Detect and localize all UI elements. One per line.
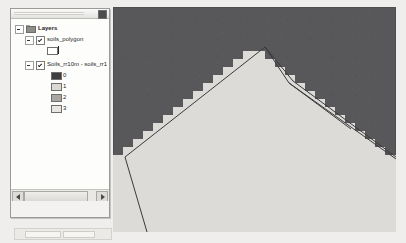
close-icon[interactable] [98, 10, 107, 19]
symbol-label-class-2: 2 [63, 92, 66, 103]
symbol-label-class-0: 0 [63, 70, 66, 81]
symbol-label-class-3: 3 [63, 103, 66, 114]
symbol-swatch-class-0[interactable] [51, 72, 62, 80]
folder-icon [26, 25, 34, 31]
layer-row-soils-rr10m[interactable]: Soils_rr10m - soils_rr1 [11, 59, 109, 70]
application-window: Layers soils_polygon Soils_rr10m - soils… [0, 0, 406, 243]
symbol-swatch-hollow[interactable] [47, 47, 58, 55]
layer-label-soils-rr10m: Soils_rr10m - soils_rr1 [47, 59, 107, 70]
table-of-contents-panel[interactable]: Layers soils_polygon Soils_rr10m - soils… [10, 8, 110, 218]
map-data-frame[interactable] [113, 7, 396, 232]
toc-body[interactable]: Layers soils_polygon Soils_rr10m - soils… [11, 19, 109, 201]
bottom-toolbar-strip[interactable] [14, 228, 112, 240]
symbol-row-soils-polygon-0[interactable] [11, 45, 109, 56]
symbol-swatch-class-1[interactable] [51, 83, 62, 91]
expander-icon-soils-rr10m[interactable] [25, 61, 34, 70]
layer-label-soils-polygon: soils_polygon [47, 34, 83, 45]
symbol-row-class-2[interactable]: 2 [11, 92, 109, 103]
scrollbar-thumb[interactable] [24, 191, 88, 201]
toolbar-segment-2[interactable] [63, 231, 95, 238]
map-graphics [113, 7, 396, 232]
layer-row-soils-polygon[interactable]: soils_polygon [11, 34, 109, 45]
visibility-checkbox-soils-rr10m[interactable] [36, 61, 45, 70]
visibility-checkbox-soils-polygon[interactable] [36, 36, 45, 45]
scroll-right-arrow-icon[interactable] [96, 191, 108, 201]
symbol-row-class-0[interactable]: 0 [11, 70, 109, 81]
tree-label-layers: Layers [38, 23, 57, 34]
toc-horizontal-scrollbar[interactable] [11, 189, 109, 201]
drag-grip-icon[interactable] [14, 12, 84, 15]
symbol-row-class-1[interactable]: 1 [11, 81, 109, 92]
toolbar-segment-1[interactable] [25, 231, 61, 238]
symbol-label-class-1: 1 [63, 81, 66, 92]
tree-row-layers[interactable]: Layers [11, 23, 109, 34]
symbol-tick-icon [58, 46, 59, 54]
toc-titlebar[interactable] [11, 9, 109, 19]
expander-icon-soils-polygon[interactable] [25, 36, 34, 45]
raster-polygon [113, 51, 396, 232]
symbol-row-class-3[interactable]: 3 [11, 103, 109, 114]
symbol-swatch-class-3[interactable] [51, 105, 62, 113]
scroll-left-arrow-icon[interactable] [12, 191, 24, 201]
expander-icon-layers[interactable] [15, 25, 24, 34]
symbol-swatch-class-2[interactable] [51, 94, 62, 102]
